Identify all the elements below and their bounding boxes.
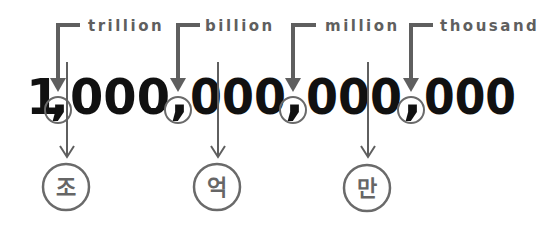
number-units-diagram: trillion billion million thousand 1 , 00… (0, 0, 547, 227)
digit-group-4: 000 (424, 68, 516, 126)
digit-group-3: 000 (306, 68, 402, 126)
korean-label-man: 만 (357, 176, 377, 201)
korean-unit-man: 만 (344, 165, 390, 211)
label-trillion: trillion (88, 17, 164, 35)
korean-label-jo: 조 (56, 175, 76, 200)
korean-unit-jo: 조 (43, 164, 89, 210)
digit-group-2: 000 (190, 68, 286, 126)
korean-label-eok: 억 (207, 175, 227, 200)
label-billion: billion (205, 17, 275, 35)
big-number: 1 , 000 , 000 , 000 , 000 (26, 68, 516, 126)
label-million: million (325, 17, 400, 35)
korean-unit-eok: 억 (194, 164, 240, 210)
label-thousand: thousand (440, 17, 539, 35)
digit-group-1: 000 (70, 68, 170, 126)
